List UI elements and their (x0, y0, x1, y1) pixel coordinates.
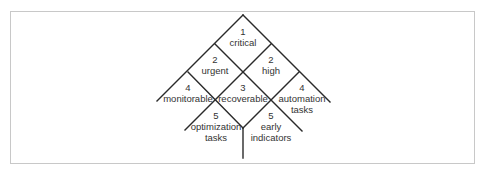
priority-number: 5 (191, 110, 242, 121)
cell-text: monitorable (163, 93, 213, 104)
cell-text: early (251, 121, 292, 132)
cell-critical: 1 critical (230, 26, 257, 48)
cell-recoverable: 3 recoverable (218, 82, 268, 104)
priority-number: 2 (202, 54, 229, 65)
priority-number: 4 (278, 82, 325, 93)
priority-number: 1 (230, 26, 257, 37)
cell-text: critical (230, 37, 257, 48)
cell-text: automation (278, 93, 325, 104)
cell-text: high (262, 65, 280, 76)
cell-early-indicators: 5 early indicators (251, 110, 292, 143)
priority-number: 3 (218, 82, 268, 93)
cell-text: urgent (202, 65, 229, 76)
cell-urgent: 2 urgent (202, 54, 229, 76)
priority-number: 4 (163, 82, 213, 93)
cell-text: tasks (191, 132, 242, 143)
cell-monitorable: 4 monitorable (163, 82, 213, 104)
cell-optimization-tasks: 5 optimization tasks (191, 110, 242, 143)
priority-number: 5 (251, 110, 292, 121)
cell-text: optimization (191, 121, 242, 132)
priority-number: 2 (262, 54, 280, 65)
cell-high: 2 high (262, 54, 280, 76)
cell-text: indicators (251, 132, 292, 143)
cell-text: recoverable (218, 93, 268, 104)
